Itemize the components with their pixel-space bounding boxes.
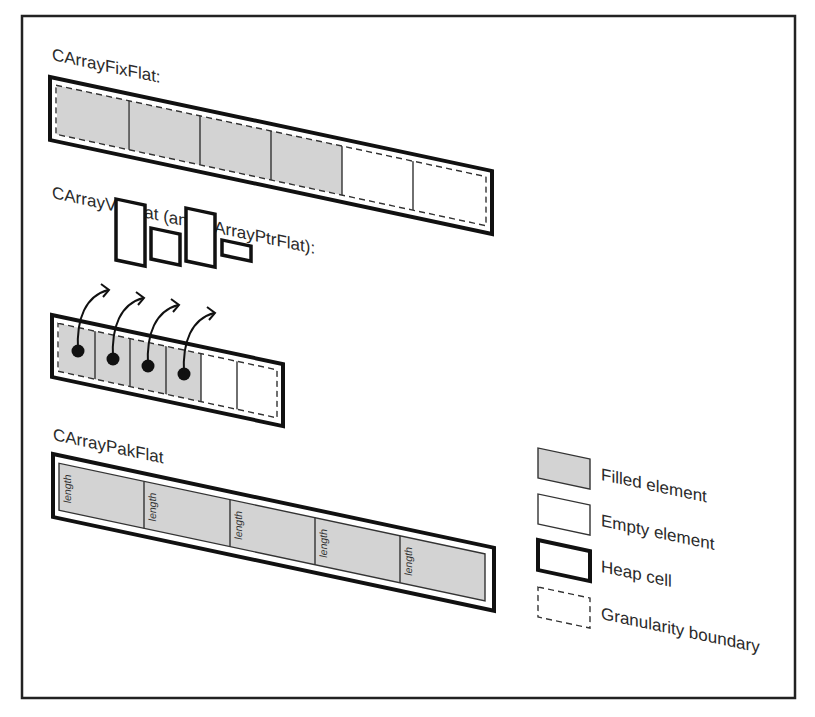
empty-swatch [538, 494, 590, 535]
legend-label-heap: Heap cell [601, 556, 672, 591]
length-label: length [61, 473, 73, 504]
length-label: length [146, 491, 158, 522]
legend-item-filled [538, 448, 590, 489]
granularity-swatch [538, 587, 590, 628]
pakflat-heap-cell: length length length length length [53, 454, 494, 611]
varflat-title: CArrayVarFlat (and CArrayPtrFlat): [52, 182, 315, 258]
array-layout-diagram: CArrayFixFlat: CArrayVarFlat (and CArray… [0, 0, 815, 717]
heap-object [151, 228, 180, 265]
legend-label-filled: Filled element [601, 464, 707, 506]
legend-label-granularity: Granularity boundary [601, 603, 760, 657]
pakflat-section: CArrayPakFlat length length length lengt… [53, 424, 494, 611]
varflat-section: CArrayVarFlat (and CArrayPtrFlat): [52, 182, 315, 426]
legend-item-heap [538, 540, 590, 581]
length-label: length [402, 546, 414, 577]
length-label: length [232, 509, 244, 540]
legend-item-granularity [538, 587, 590, 628]
legend-label-empty: Empty element [601, 510, 715, 554]
legend: Filled element Empty element Heap cell G… [538, 448, 760, 657]
length-label: length [317, 527, 329, 558]
legend-item-empty [538, 494, 590, 535]
heap-object [116, 199, 145, 266]
heap-object [186, 208, 215, 267]
heap-swatch [538, 540, 590, 581]
filled-swatch [538, 448, 590, 489]
varflat-heap-cell [52, 315, 283, 426]
